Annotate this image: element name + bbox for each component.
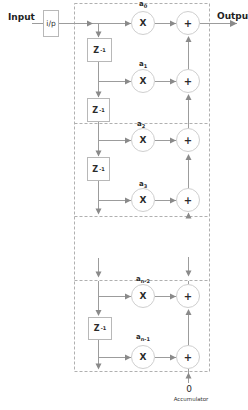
delay-block-1: Z-1 bbox=[87, 38, 112, 62]
multiplier-3: X bbox=[131, 128, 155, 152]
coefficient-label-a1: a1 bbox=[129, 60, 157, 69]
coefficient-label-an-1: an-1 bbox=[129, 333, 157, 342]
adder-4: + bbox=[176, 188, 200, 212]
fir-filter-diagram: Input Output i/p Z-1 Z-1 Z-1 Z-1 a0 a1 a… bbox=[0, 0, 248, 410]
delay-block-4: Z-1 bbox=[88, 317, 112, 340]
multiplier-4: X bbox=[131, 188, 155, 212]
coefficient-label-a0: a0 bbox=[129, 0, 157, 9]
multiplier-5: X bbox=[131, 284, 155, 308]
adder-6: + bbox=[176, 345, 200, 369]
input-label: Input bbox=[8, 12, 35, 22]
adder-3: + bbox=[176, 128, 200, 152]
connector-layer bbox=[0, 0, 248, 410]
adder-5: + bbox=[176, 284, 200, 308]
accumulator-init-value: 0 bbox=[177, 384, 201, 394]
adder-2: + bbox=[176, 69, 200, 93]
multiplier-1: X bbox=[131, 11, 155, 35]
accumulator-label: Accumulator bbox=[160, 396, 222, 403]
adder-1: + bbox=[176, 11, 200, 35]
output-label: Output bbox=[217, 11, 248, 21]
delay-block-3: Z-1 bbox=[87, 157, 110, 181]
multiplier-6: X bbox=[131, 345, 155, 369]
coefficient-label-an-2: an-2 bbox=[129, 275, 157, 284]
delay-block-2: Z-1 bbox=[87, 98, 110, 122]
input-block: i/p bbox=[43, 10, 59, 37]
multiplier-2: X bbox=[131, 69, 155, 93]
